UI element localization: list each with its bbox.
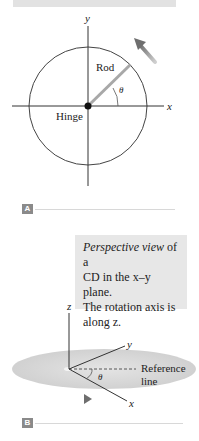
z-axis-label: z [67, 300, 71, 312]
angle-arc [113, 88, 118, 106]
reference-label-2: line [141, 375, 158, 387]
x-axis-label: x [167, 100, 172, 112]
hinge-dot [85, 103, 92, 110]
panel-b-tag: B [22, 418, 33, 428]
counterclockwise-arrow-icon [140, 45, 155, 62]
rod-label: Rod [96, 61, 114, 73]
panel-b-caption: Perspective view of a CD in the x–y plan… [75, 235, 187, 309]
panel-a-divider [35, 209, 175, 210]
angle-label: θ [119, 85, 123, 95]
caption-line-3: The rotation axis is [83, 300, 181, 315]
panel-a-tag: A [22, 204, 33, 214]
angle-label-3d: θ [98, 372, 102, 382]
caption-italic: Perspective view [83, 240, 164, 254]
y-axis-label: y [85, 12, 90, 24]
hinge-label: Hinge [56, 110, 83, 122]
panel-b-divider [35, 423, 183, 424]
reference-label-1: Reference [141, 362, 186, 374]
y-axis-label-3d: y [127, 338, 132, 350]
caption-line-4: along z. [83, 315, 181, 330]
caption-line-2: CD in the x–y plane. [83, 270, 181, 300]
x-axis-label-3d: x [129, 397, 134, 409]
panel-a-diagram [12, 26, 164, 186]
